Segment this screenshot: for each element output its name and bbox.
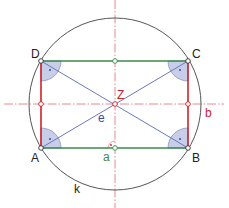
midpoint-DC (113, 59, 118, 64)
axis-right-angle-dot (110, 144, 112, 146)
midpoint-BC (186, 102, 191, 107)
vertex-B (186, 146, 191, 151)
right-angle-dot-B (179, 138, 181, 140)
label-b: b (205, 106, 212, 120)
label-B: B (192, 151, 200, 165)
label-e: e (98, 111, 105, 125)
right-angle-dot-D (49, 69, 51, 71)
right-angle-dot-A (49, 138, 51, 140)
label-a: a (103, 150, 110, 164)
label-Z: Z (117, 88, 124, 102)
center-Z-point (113, 102, 118, 107)
rectangle-circumcircle-diagram: D C A B Z e a b k (0, 0, 229, 208)
right-angle-dot-C (179, 69, 181, 71)
label-k: k (74, 182, 81, 196)
label-C: C (192, 47, 201, 61)
midpoint-AD (39, 102, 44, 107)
midpoint-AB (113, 146, 118, 151)
vertex-A (39, 146, 44, 151)
vertex-C (186, 59, 191, 64)
label-A: A (31, 151, 39, 165)
label-D: D (31, 47, 40, 61)
